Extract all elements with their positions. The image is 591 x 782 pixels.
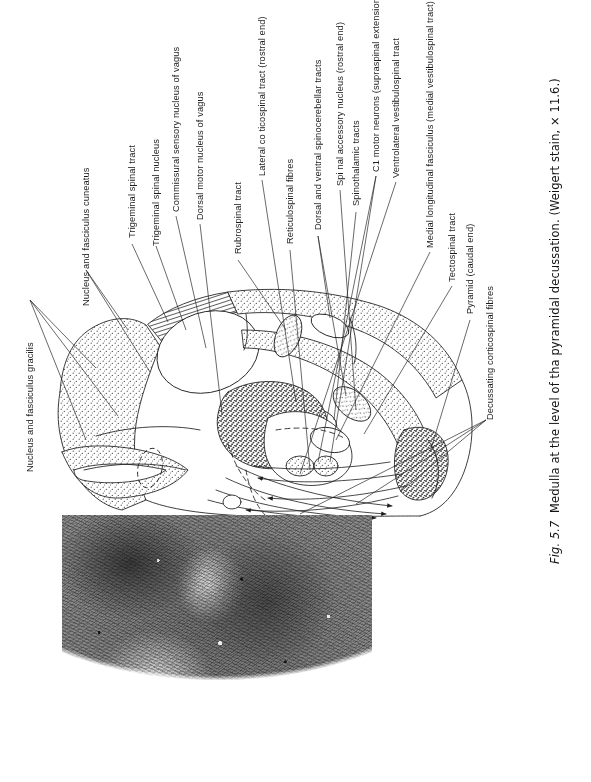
region-c1-motor-b (314, 456, 338, 476)
figure-caption: Fig. 5.7 Medulla at the level of tha pyr… (548, 78, 562, 564)
caption-text: Medulla at the level of tha pyramidal de… (548, 78, 562, 513)
label-spinothalamic-tracts: Spinothalamic tracts (352, 120, 361, 206)
label-tectospinal-tract: Tectospinal tract (448, 213, 457, 282)
label-nucleus-fasciculus-cuneatus: Nucleus and fasciculus cuneatus (82, 168, 91, 307)
label-nucleus-fasciculus-gracilis: Nucleus and fasciculus gracilis (26, 342, 35, 472)
caption-number: Fig. 5.7 (548, 520, 562, 564)
label-reticulospinal-fibres: Reticulospinal fibres (286, 159, 295, 244)
region-pyramid-caudal-end (394, 427, 448, 500)
region-small-ventral-oval (223, 495, 241, 509)
label-decussating-corticospinal-fibres: Decussating corticospinal fibres (486, 286, 495, 420)
photomicrograph-panel (62, 515, 372, 782)
label-lateral-corticospinal-tract: Lateral co ticospinal tract (rostral end… (258, 16, 267, 176)
label-ventrolateral-vestibulospinal-tract: Ventrolateral vestibulospinal tract (392, 38, 401, 178)
photomicrograph-specks (62, 515, 372, 782)
figure-5-7: Nucleus and fasciculus gracilis Nucleus … (0, 0, 591, 782)
label-trigeminal-spinal-nucleus: Trigeminal spinal nucleus (152, 139, 161, 246)
label-rubrospinal-tract: Rubrospinal tract (234, 182, 243, 254)
label-trigeminal-spinal-tract: Trigeminal spinal tract (128, 145, 137, 238)
label-commissural-sensory-nucleus-of-vagus: Commissural sensory nucleus of vagus (172, 47, 181, 212)
label-dorsal-motor-nucleus-of-vagus: Dorsal motor nucleus of vagus (196, 92, 205, 220)
label-pyramid-caudal-end: Pyramid (caudal end) (466, 224, 475, 314)
label-spinal-accessory-nucleus: Spi nal accessory nucleus (rostral end) (336, 22, 345, 186)
label-c1-motor-neurons: C1 motor neurons (supraspinal extension) (372, 0, 381, 172)
label-dorsal-ventral-spinocerebellar-tracts: Dorsal and ventral spinocerebellar tract… (314, 60, 323, 231)
label-medial-longitudinal-fasciculus: Medial longitudinal fasciculus (medial v… (426, 1, 435, 248)
